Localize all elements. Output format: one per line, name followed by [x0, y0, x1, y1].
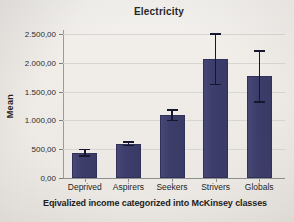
- y-axis-tick-label: 0,00: [40, 174, 56, 183]
- x-axis-tick-mark: [85, 178, 86, 182]
- y-axis-tick-mark: [59, 34, 63, 35]
- y-axis-tick-mark: [59, 92, 63, 93]
- x-axis-tick-mark: [128, 178, 129, 182]
- x-axis-tick-mark: [216, 178, 217, 182]
- error-bar: [208, 33, 224, 85]
- x-axis-category-label: Deprived: [68, 182, 102, 192]
- error-bar-cap-lower: [79, 155, 90, 156]
- error-bar-cap-lower: [123, 145, 134, 146]
- chart-figure: Electricity Mean 0,00500,001.000,001.500…: [0, 0, 294, 222]
- y-axis-tick-label: 1.500,00: [25, 87, 56, 96]
- y-axis-tick-label: 2.500,00: [25, 30, 56, 39]
- error-bar-cap-upper: [123, 141, 134, 142]
- x-axis-category-labels: DeprivedAspirersSeekersStriversGlobals: [63, 182, 281, 194]
- plot-area: 0,00500,001.000,001.500,002.000,002.500,…: [63, 34, 281, 178]
- y-axis-tick-mark: [59, 149, 63, 150]
- error-bar-cap-lower: [167, 120, 178, 121]
- x-axis-category-label: Aspirers: [113, 182, 144, 192]
- x-axis-category-label: Strivers: [201, 182, 230, 192]
- bar: [116, 144, 141, 178]
- x-axis-category-label: Globals: [245, 182, 274, 192]
- gridline: [63, 34, 285, 35]
- bar: [160, 115, 185, 178]
- error-bar-line: [259, 50, 260, 102]
- y-axis-tick-label: 500,00: [32, 145, 56, 154]
- y-axis-tick-label: 2.000,00: [25, 58, 56, 67]
- error-bar-cap-upper: [254, 50, 265, 51]
- x-axis-label: Eqivalized income categorized into McKin…: [0, 198, 294, 208]
- x-axis-category-label: Seekers: [156, 182, 187, 192]
- error-bar-cap-upper: [167, 109, 178, 110]
- error-bar-cap-upper: [79, 149, 90, 150]
- chart-title: Electricity: [0, 6, 294, 17]
- y-axis-tick-mark: [59, 178, 63, 179]
- error-bar-cap-lower: [254, 101, 265, 102]
- error-bar: [164, 109, 180, 121]
- error-bar: [120, 141, 136, 146]
- y-axis-label-text: Mean: [5, 94, 15, 118]
- y-axis-tick-label: 1.000,00: [25, 116, 56, 125]
- y-axis-tick-mark: [59, 63, 63, 64]
- error-bar-line: [215, 33, 216, 85]
- error-bar-cap-upper: [210, 33, 221, 34]
- error-bar-cap-lower: [210, 84, 221, 85]
- error-bar: [77, 149, 93, 157]
- x-axis-line: [63, 178, 285, 179]
- x-axis-tick-mark: [172, 178, 173, 182]
- y-axis-label: Mean: [5, 34, 15, 178]
- error-bar: [251, 50, 267, 102]
- y-axis-tick-mark: [59, 120, 63, 121]
- x-axis-tick-mark: [259, 178, 260, 182]
